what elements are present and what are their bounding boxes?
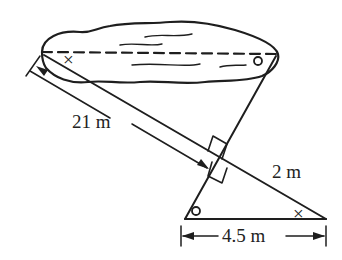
arrowhead-4-5m-left-icon — [182, 232, 194, 240]
angle-mark-cross-lake: × — [63, 49, 74, 70]
angle-mark-circle-lake — [254, 57, 262, 65]
water-ripple-2 — [120, 44, 162, 45]
water-ripple-1 — [145, 34, 192, 37]
arrowhead-4-5m-right-icon — [313, 232, 325, 240]
long-sight-line — [44, 55, 326, 219]
angle-mark-cross-small: × — [293, 203, 304, 224]
arrowhead-21m-lower-icon — [197, 159, 209, 169]
label-4-5m: 4.5 m — [222, 225, 266, 246]
water-ripple-3 — [132, 64, 200, 65]
label-21m: 21 m — [72, 111, 111, 132]
lake-width-dashed-line — [42, 52, 276, 54]
water-ripple-4 — [220, 65, 246, 67]
label-2m: 2 m — [272, 161, 301, 182]
dimension-line-21m-lower — [132, 124, 207, 168]
angle-mark-circle-small — [192, 207, 200, 215]
lake-diagram: × × 21 m 2 m 4.5 m — [0, 0, 342, 260]
